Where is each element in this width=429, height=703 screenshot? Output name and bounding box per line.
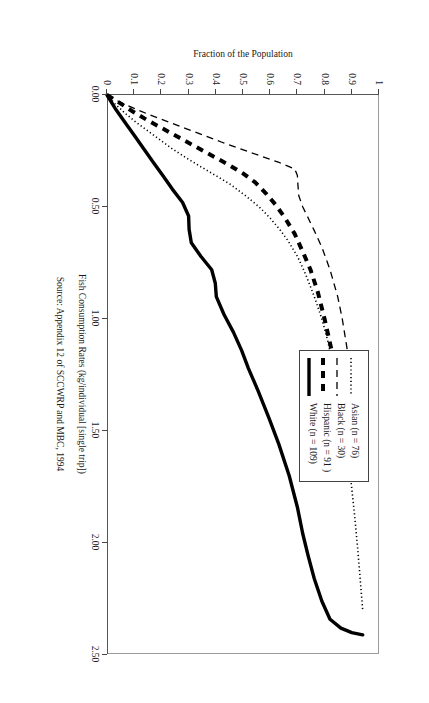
x-axis-tick-label: 2.50 <box>90 645 100 662</box>
y-axis-tick-label: 0.5 <box>238 73 248 85</box>
legend-item: Black (n = 30) <box>334 357 348 472</box>
y-axis-tick-label: 1 <box>374 80 384 85</box>
source-note: Source: Appendix 12 of SCCWRP and MBC, 1… <box>55 94 65 654</box>
y-axis-tick-label: 0.1 <box>129 73 139 85</box>
legend-key-dashed-icon <box>336 357 346 397</box>
legend-label: Hispanic (n = 91 ) <box>322 403 332 472</box>
y-axis-tick-label: 0 <box>102 80 112 85</box>
rotated-figure-wrapper: 0.000.501.001.502.002.50 00.10.20.30.40.… <box>0 0 429 703</box>
y-axis-tick-label: 0.4 <box>210 73 220 85</box>
x-axis-tick <box>102 542 107 543</box>
y-axis-tick <box>242 89 243 94</box>
chart-figure: 0.000.501.001.502.002.50 00.10.20.30.40.… <box>43 32 387 672</box>
x-axis-tick <box>102 318 107 319</box>
y-axis-tick <box>323 89 324 94</box>
x-axis-tick <box>102 430 107 431</box>
y-axis-title: Fraction of the Population <box>193 49 292 59</box>
x-axis-tick-label: 2.00 <box>90 533 100 550</box>
legend-label: Asian (n = 76) <box>350 403 360 458</box>
y-axis-tick-label: 0.6 <box>265 73 275 85</box>
legend-key-thick-dashed-icon <box>322 357 332 397</box>
y-axis-tick <box>160 89 161 94</box>
x-axis-tick-label: 0.00 <box>90 85 100 102</box>
y-axis-tick <box>269 89 270 94</box>
legend-key-dotted-icon <box>350 357 360 397</box>
legend-item: Asian (n = 76) <box>348 357 362 472</box>
legend: Asian (n = 76)Black (n = 30)Hispanic (n … <box>299 350 369 482</box>
y-axis-tick-label: 0.8 <box>319 73 329 85</box>
y-axis-tick <box>214 89 215 94</box>
x-axis-tick <box>102 206 107 207</box>
x-axis-tick-label: 0.50 <box>90 197 100 214</box>
x-axis-title: Fish Consumption Rates (kg/individual [s… <box>77 94 87 654</box>
legend-item: Hispanic (n = 91 ) <box>320 357 334 472</box>
y-axis-tick <box>187 89 188 94</box>
legend-label: White (n = 109) <box>308 403 318 464</box>
y-axis-tick-label: 0.9 <box>346 73 356 85</box>
x-axis-tick-label: 1.50 <box>90 421 100 438</box>
y-axis-tick <box>378 89 379 94</box>
x-axis-tick-label: 1.00 <box>90 309 100 326</box>
legend-item: White (n = 109) <box>306 357 320 472</box>
y-axis-tick-label: 0.7 <box>292 73 302 85</box>
y-axis-tick <box>106 89 107 94</box>
figure-page: 0.000.501.001.502.002.50 00.10.20.30.40.… <box>0 0 429 703</box>
y-axis-tick-label: 0.2 <box>156 73 166 85</box>
y-axis-tick <box>296 89 297 94</box>
y-axis-tick-label: 0.3 <box>183 73 193 85</box>
y-axis-tick <box>133 89 134 94</box>
x-axis-tick <box>102 654 107 655</box>
legend-key-solid-icon <box>308 357 318 397</box>
legend-label: Black (n = 30) <box>336 403 346 458</box>
y-axis-tick <box>350 89 351 94</box>
